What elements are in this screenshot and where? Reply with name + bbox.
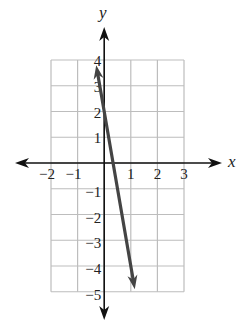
y-axis-label: y <box>97 3 107 22</box>
y-tick-label: −2 <box>85 210 101 226</box>
y-tick-label: −5 <box>85 287 101 303</box>
y-tick-label: 1 <box>94 130 102 146</box>
y-tick-label: 2 <box>94 105 102 121</box>
tick-labels: −2−11234321−1−2−3−4−5 <box>39 53 188 303</box>
x-axis-label: x <box>227 152 236 171</box>
x-tick-label: −2 <box>39 166 55 182</box>
y-tick-label: −1 <box>85 184 101 200</box>
x-tick-label: 2 <box>154 166 162 182</box>
y-tick-label: −3 <box>85 235 101 251</box>
y-tick-label: −4 <box>85 261 101 277</box>
x-tick-label: 1 <box>127 166 135 182</box>
x-tick-label: 3 <box>180 166 188 182</box>
x-tick-label: −1 <box>66 166 82 182</box>
y-tick-label: 4 <box>94 53 102 69</box>
graph: −2−11234321−1−2−3−4−5 x y <box>0 0 242 321</box>
